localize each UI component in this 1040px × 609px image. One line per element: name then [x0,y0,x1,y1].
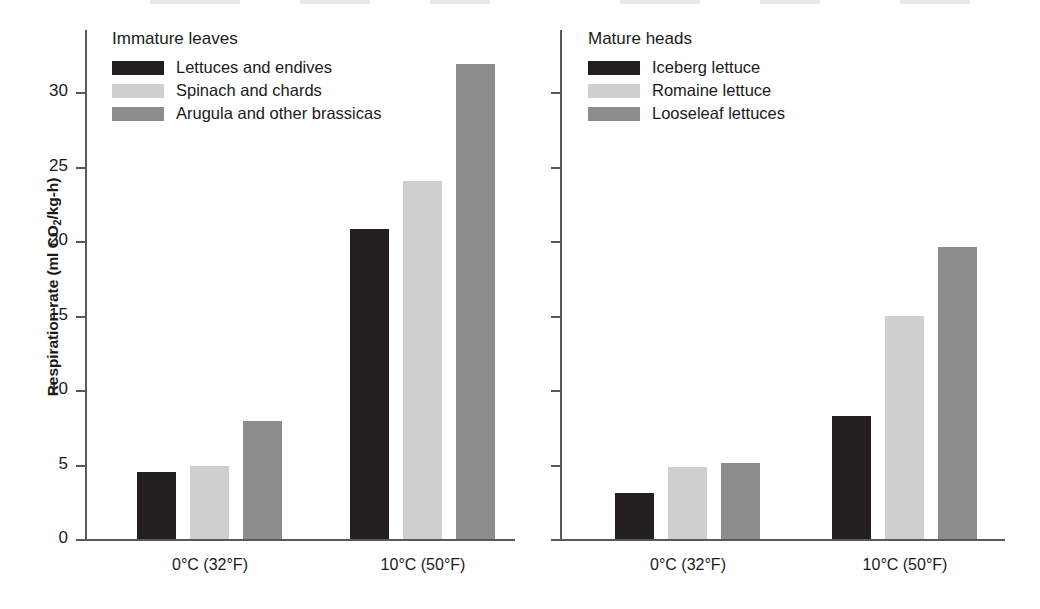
legend-immature-leaves: Immature leaves Lettuces and endives Spi… [112,29,381,125]
legend-item: Lettuces and endives [112,56,381,79]
bar-left-g2-s1 [350,229,389,539]
y-tick-15-right [551,316,560,318]
plot-area-left: 0 5 10 15 20 25 30 0°C (32°F) 10°C (50°F… [0,0,540,609]
y-tick-10 [76,390,85,392]
bar-right-g1-s1 [615,493,654,539]
y-tick-0-right [551,539,560,541]
legend-swatch-icon [112,107,164,121]
bar-right-g1-s3 [721,463,760,539]
legend-item: Looseleaf lettuces [588,102,785,125]
bar-right-g2-s2 [885,316,924,539]
legend-item: Spinach and chards [112,79,381,102]
y-tick-label-20: 20 [28,230,68,250]
x-group-label-0c: 0°C (32°F) [130,556,290,574]
legend-swatch-icon [112,61,164,75]
legend-swatch-icon [588,107,640,121]
y-tick-20 [76,241,85,243]
panel-mature-heads: 0°C (32°F) 10°C (50°F) Mature heads Iceb… [540,0,1040,609]
y-tick-25-right [551,167,560,169]
legend-item: Iceberg lettuce [588,56,785,79]
y-tick-10-right [551,390,560,392]
y-axis-line-right [560,30,562,541]
legend-label: Arugula and other brassicas [176,104,381,123]
y-tick-label-30: 30 [28,81,68,101]
plot-area-right: 0°C (32°F) 10°C (50°F) Mature heads Iceb… [540,0,1040,609]
y-tick-label-5: 5 [28,454,68,474]
y-tick-25 [76,167,85,169]
y-tick-30 [76,92,85,94]
bar-right-g2-s1 [832,416,871,539]
y-tick-label-10: 10 [28,379,68,399]
bar-right-g1-s2 [668,467,707,539]
legend-swatch-icon [588,61,640,75]
legend-title: Mature heads [588,29,785,49]
panel-immature-leaves: 0 5 10 15 20 25 30 0°C (32°F) 10°C (50°F… [0,0,540,609]
legend-label: Romaine lettuce [652,81,771,100]
y-tick-0 [76,539,85,541]
y-tick-label-25: 25 [28,156,68,176]
y-tick-5-right [551,465,560,467]
x-axis-line-left [85,539,515,541]
y-tick-15 [76,316,85,318]
y-tick-5 [76,465,85,467]
y-tick-20-right [551,241,560,243]
bar-left-g2-s3 [456,64,495,539]
legend-swatch-icon [112,84,164,98]
y-tick-30-right [551,92,560,94]
bar-right-g2-s3 [938,247,977,539]
legend-title: Immature leaves [112,29,381,49]
x-group-label-10c: 10°C (50°F) [343,556,503,574]
legend-item: Arugula and other brassicas [112,102,381,125]
x-group-label-0c-right: 0°C (32°F) [608,556,768,574]
y-tick-label-0: 0 [28,528,68,548]
bar-left-g1-s3 [243,421,282,539]
legend-label: Lettuces and endives [176,58,332,77]
y-axis-line-left [85,30,87,541]
legend-item: Romaine lettuce [588,79,785,102]
respiration-rate-chart: Respiration rate (ml CO2/kg-h) 0 5 10 15… [0,0,1040,609]
x-axis-line-right [560,539,1005,541]
legend-label: Iceberg lettuce [652,58,760,77]
legend-swatch-icon [588,84,640,98]
legend-label: Spinach and chards [176,81,322,100]
bar-left-g2-s2 [403,181,442,539]
x-group-label-10c-right: 10°C (50°F) [825,556,985,574]
bar-left-g1-s2 [190,466,229,539]
legend-label: Looseleaf lettuces [652,104,785,123]
legend-mature-heads: Mature heads Iceberg lettuce Romaine let… [588,29,785,125]
bar-left-g1-s1 [137,472,176,539]
y-tick-label-15: 15 [28,305,68,325]
